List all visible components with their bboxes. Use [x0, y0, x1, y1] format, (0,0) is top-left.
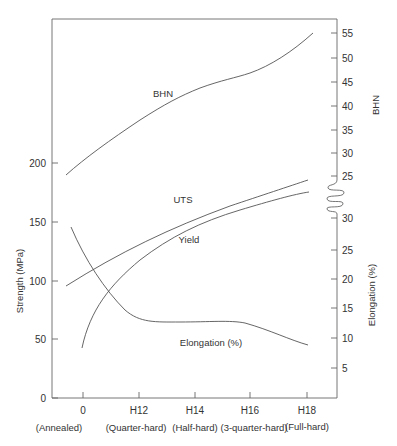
- yield-label: Yield: [179, 234, 200, 245]
- left-tick-label: 100: [29, 276, 46, 287]
- left-tick-label: 150: [29, 217, 46, 228]
- bhn-tick-label: 45: [342, 77, 354, 88]
- x-tick-label: 0: [80, 405, 86, 416]
- x-sublabel: (Full-hard): [285, 421, 329, 432]
- left-tick-label: 200: [29, 158, 46, 169]
- x-sublabel: (Quarter-hard): [106, 422, 167, 433]
- x-sublabel: (Half-hard): [172, 422, 217, 433]
- bhn-tick-label: 55: [342, 28, 354, 39]
- chart: 0 50 100 150 200 Strength (MPa) 25 30 35…: [0, 0, 397, 446]
- bhn-curve: [66, 33, 313, 175]
- elongation-axis-label: Elongation (%): [366, 264, 377, 326]
- elong-tick-label: 10: [342, 333, 354, 344]
- bhn-tick-label: 50: [342, 53, 354, 64]
- yield-curve: [82, 192, 309, 348]
- elongation-label: Elongation (%): [180, 337, 242, 348]
- x-tick-label: H12: [130, 405, 149, 416]
- x-sublabel: (Annealed): [36, 422, 82, 433]
- bhn-ticks: 25 30 35 40 45 50 55: [331, 28, 354, 182]
- bhn-axis-label: BHN: [370, 95, 381, 115]
- left-axis-label: Strength (MPa): [14, 249, 25, 313]
- x-tick-label: H14: [186, 405, 205, 416]
- axis-break-icon: [327, 180, 344, 214]
- x-tick-label: H16: [241, 405, 260, 416]
- bhn-tick-label: 25: [342, 171, 354, 182]
- elong-tick-label: 25: [342, 245, 354, 256]
- x-tick-label: H18: [298, 405, 317, 416]
- bhn-tick-label: 40: [342, 101, 354, 112]
- elongation-ticks: 5 10 15 20 25 30: [331, 213, 354, 374]
- elong-tick-label: 20: [342, 274, 354, 285]
- x-sublabel: (3-quarter-hard): [220, 422, 287, 433]
- bhn-tick-label: 30: [342, 148, 354, 159]
- elong-tick-label: 30: [342, 213, 354, 224]
- left-tick-label: 50: [35, 334, 47, 345]
- uts-label: UTS: [174, 194, 193, 205]
- bhn-label: BHN: [153, 88, 173, 99]
- elong-tick-label: 15: [342, 303, 354, 314]
- left-ticks: 0 50 100 150 200: [29, 158, 58, 404]
- left-tick-label: 0: [40, 393, 46, 404]
- bhn-tick-label: 35: [342, 125, 354, 136]
- elong-tick-label: 5: [342, 363, 348, 374]
